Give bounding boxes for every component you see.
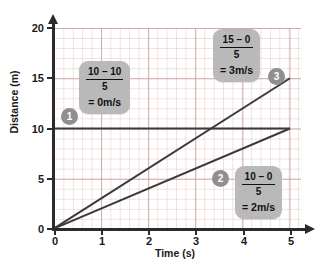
x-axis-line bbox=[54, 228, 308, 231]
slope-numerator-1: 10 – 10 bbox=[86, 66, 123, 80]
slope-callout-3: 15 – 0 5 = 3m/s bbox=[213, 29, 260, 82]
y-tick-label-20: 20 bbox=[18, 23, 44, 34]
slope-numerator-3: 15 – 0 bbox=[220, 34, 253, 48]
slope-fraction-1: 10 – 10 5 bbox=[86, 66, 123, 93]
y-tick-mark-15 bbox=[47, 77, 53, 79]
y-tick-label-5: 5 bbox=[18, 174, 44, 185]
slope-result-1: = 0m/s bbox=[86, 96, 123, 109]
y-tick-mark-20 bbox=[47, 27, 53, 29]
series-marker-3: 3 bbox=[268, 68, 285, 85]
x-tick-label-5: 5 bbox=[281, 236, 301, 247]
y-axis-arrow-icon bbox=[48, 14, 58, 24]
y-tick-mark-10 bbox=[47, 128, 53, 130]
distance-time-graph-figure: 20 15 10 5 0 0 1 2 3 4 5 Distance (m) Ti… bbox=[0, 0, 324, 273]
series-marker-1: 1 bbox=[61, 108, 78, 125]
slope-numerator-2: 10 – 0 bbox=[242, 171, 275, 185]
slope-result-3: = 3m/s bbox=[220, 64, 253, 77]
x-axis-title: Time (s) bbox=[120, 247, 230, 259]
x-tick-label-1: 1 bbox=[92, 236, 112, 247]
slope-result-2: = 2m/s bbox=[242, 201, 275, 214]
x-axis-arrow-icon bbox=[305, 224, 315, 234]
y-tick-label-10: 10 bbox=[18, 124, 44, 135]
slope-callout-2: 10 – 0 5 = 2m/s bbox=[235, 166, 282, 219]
y-tick-label-0: 0 bbox=[18, 224, 44, 235]
series-marker-2: 2 bbox=[212, 170, 229, 187]
x-tick-label-0: 0 bbox=[45, 236, 65, 247]
slope-denominator-2: 5 bbox=[242, 185, 275, 198]
y-axis-line bbox=[52, 22, 55, 231]
slope-denominator-3: 5 bbox=[220, 48, 253, 61]
slope-fraction-3: 15 – 0 5 bbox=[220, 34, 253, 61]
y-tick-label-15: 15 bbox=[18, 73, 44, 84]
slope-denominator-1: 5 bbox=[86, 80, 123, 93]
x-tick-label-3: 3 bbox=[186, 236, 206, 247]
x-tick-label-4: 4 bbox=[234, 236, 254, 247]
y-axis-title: Distance (m) bbox=[8, 52, 20, 152]
x-tick-label-2: 2 bbox=[139, 236, 159, 247]
slope-callout-1: 10 – 10 5 = 0m/s bbox=[79, 61, 130, 114]
y-tick-mark-0 bbox=[47, 228, 53, 230]
y-tick-mark-5 bbox=[47, 178, 53, 180]
slope-fraction-2: 10 – 0 5 bbox=[242, 171, 275, 198]
